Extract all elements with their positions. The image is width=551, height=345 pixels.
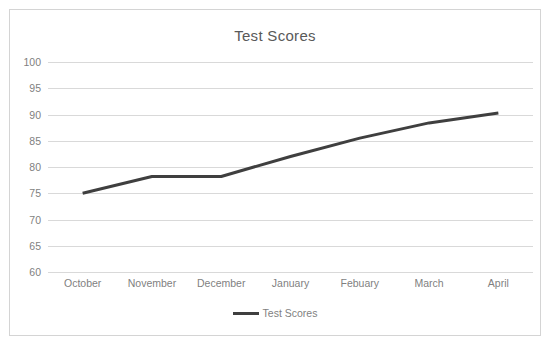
chart-legend: Test Scores (10, 307, 540, 319)
y-axis-tick-label: 60 (29, 266, 41, 278)
x-axis-tick-label: December (197, 277, 245, 289)
y-axis-tick-label: 100 (23, 56, 41, 68)
series-line (83, 113, 499, 193)
x-axis-tick-label: October (64, 277, 101, 289)
gridline (48, 272, 533, 273)
x-axis-tick-label: Febuary (341, 277, 380, 289)
legend-label-test-scores: Test Scores (263, 307, 318, 319)
y-axis-tick-label: 85 (29, 135, 41, 147)
x-axis-tick-label: March (414, 277, 443, 289)
x-axis-tick-label: January (272, 277, 309, 289)
y-axis-tick-label: 70 (29, 214, 41, 226)
y-axis-tick-label: 75 (29, 187, 41, 199)
legend-line-swatch (233, 312, 259, 315)
chart-title: Test Scores (10, 27, 540, 44)
y-axis-tick-label: 90 (29, 109, 41, 121)
plot-area: 1009590858075706560 OctoberNovemberDecem… (48, 62, 533, 272)
y-axis-tick-label: 65 (29, 240, 41, 252)
x-axis-tick-label: April (488, 277, 509, 289)
y-axis-tick-label: 95 (29, 82, 41, 94)
y-axis-tick-label: 80 (29, 161, 41, 173)
data-series-test-scores (48, 62, 533, 272)
chart-frame: Test Scores 1009590858075706560 OctoberN… (9, 9, 541, 336)
x-axis-tick-label: November (128, 277, 176, 289)
